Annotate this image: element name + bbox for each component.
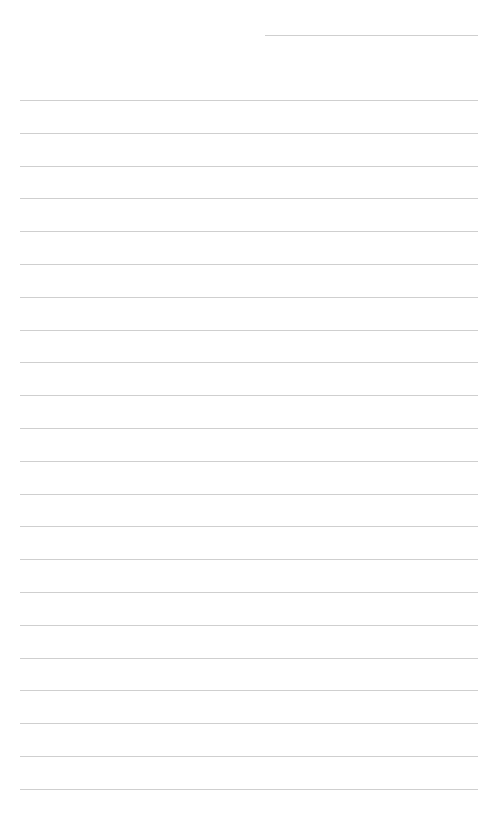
ruled-line xyxy=(20,428,478,429)
ruled-line xyxy=(20,198,478,199)
ruled-line xyxy=(20,395,478,396)
ruled-line xyxy=(20,264,478,265)
ruled-line xyxy=(20,166,478,167)
ruled-line xyxy=(20,592,478,593)
ruled-line xyxy=(20,133,478,134)
ruled-line xyxy=(20,658,478,659)
ruled-line xyxy=(20,100,478,101)
ruled-line xyxy=(20,231,478,232)
ruled-line xyxy=(20,362,478,363)
ruled-line xyxy=(20,756,478,757)
ruled-line xyxy=(20,789,478,790)
ruled-line xyxy=(20,690,478,691)
ruled-line xyxy=(20,625,478,626)
ruled-line xyxy=(20,723,478,724)
ruled-line xyxy=(20,330,478,331)
ruled-line xyxy=(20,461,478,462)
ruled-line xyxy=(20,559,478,560)
ruled-page xyxy=(0,0,502,823)
ruled-line xyxy=(20,526,478,527)
ruled-line xyxy=(20,297,478,298)
header-field-line xyxy=(265,35,478,36)
ruled-line xyxy=(20,494,478,495)
